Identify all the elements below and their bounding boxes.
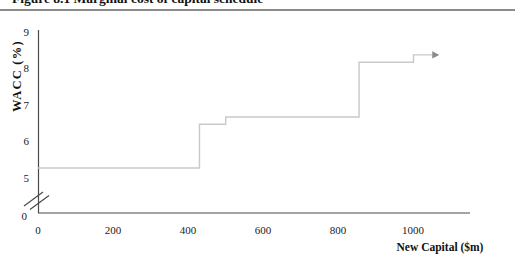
wacc-step-line [38, 55, 432, 168]
continuation-arrow-icon [432, 51, 439, 58]
axis-break-mark-1 [24, 192, 43, 206]
figure-page: Figure 8.1 Marginal cost of capital sche… [0, 0, 515, 255]
wacc-step-chart [0, 0, 515, 255]
axis-break-mark-2 [30, 196, 49, 210]
